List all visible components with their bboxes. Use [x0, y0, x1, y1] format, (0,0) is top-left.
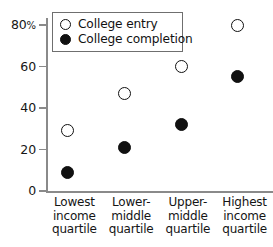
data-point [175, 118, 188, 131]
data-point [175, 60, 188, 73]
data-point [231, 19, 244, 32]
y-axis-tick-label: 20 [0, 142, 36, 157]
y-axis-tick-label: 60 [0, 59, 36, 74]
x-axis-category-label: Lowestincomequartile [46, 196, 103, 246]
legend: College entry College completion [52, 12, 183, 52]
y-axis-tick-label: 40 [0, 100, 36, 115]
y-axis-tick-label: 80% [0, 17, 36, 32]
data-point [231, 70, 244, 83]
legend-label: College completion [78, 32, 193, 46]
x-axis-label-line: income [216, 210, 273, 224]
x-axis-category-label: Upper-middlequartile [160, 196, 217, 246]
data-point [61, 166, 74, 179]
y-axis-tick-label: 0 [0, 183, 36, 198]
legend-item-college-completion: College completion [60, 32, 176, 46]
x-axis-category-label: Lower-middlequartile [103, 196, 160, 246]
data-point [118, 141, 131, 154]
legend-item-college-entry: College entry [60, 17, 176, 31]
x-axis-label-line: Lower- [103, 196, 160, 210]
x-axis-label-line: quartile [216, 223, 273, 237]
chart-container: 020406080% College entry College complet… [0, 0, 273, 247]
data-point [118, 87, 131, 100]
x-axis-label-line: Highest [216, 196, 273, 210]
x-axis-label-line: Lowest [46, 196, 103, 210]
x-axis-label-line: quartile [160, 223, 217, 237]
open-circle-icon [60, 19, 71, 30]
y-axis-tick [39, 107, 46, 109]
x-axis-labels: LowestincomequartileLower-middlequartile… [46, 196, 273, 246]
x-axis-label-line: income [46, 210, 103, 224]
x-axis-label-line: quartile [46, 223, 103, 237]
data-point [61, 124, 74, 137]
y-axis-tick [39, 149, 46, 151]
x-axis-label-line: middle [103, 210, 160, 224]
x-axis-label-line: middle [160, 210, 217, 224]
x-axis-category-label: Highestincomequartile [216, 196, 273, 246]
y-axis-tick [39, 190, 46, 192]
y-axis-tick [39, 66, 46, 68]
filled-circle-icon [60, 34, 71, 45]
x-axis-label-line: Upper- [160, 196, 217, 210]
x-axis-label-line: quartile [103, 223, 160, 237]
y-axis-tick [39, 24, 46, 26]
legend-label: College entry [78, 17, 158, 31]
